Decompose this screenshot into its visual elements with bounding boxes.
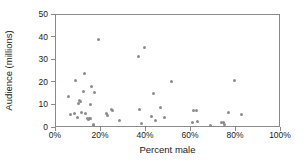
data-point — [89, 103, 92, 106]
data-point — [209, 124, 212, 127]
data-point — [82, 90, 85, 93]
y-axis-tick-label: 30 — [39, 54, 48, 64]
y-axis-tick-label: 40 — [39, 32, 48, 42]
y-axis-title: Audience (millions) — [2, 14, 14, 127]
x-axis-tick-label: 20% — [91, 130, 108, 140]
data-point — [233, 79, 236, 82]
data-point — [93, 91, 96, 94]
data-point — [227, 111, 230, 114]
data-point — [196, 120, 199, 123]
data-point — [163, 116, 166, 119]
data-point — [73, 112, 76, 115]
y-axis-tick-label: 0 — [43, 122, 48, 132]
data-point — [80, 111, 83, 114]
data-point — [118, 119, 121, 122]
y-axis-tick — [51, 127, 55, 128]
y-axis-tick — [51, 14, 55, 15]
data-point — [76, 116, 79, 119]
data-point — [152, 92, 155, 95]
data-point — [195, 109, 198, 112]
x-axis-title: Percent male — [55, 144, 280, 155]
data-point — [90, 85, 93, 88]
data-point — [92, 124, 95, 127]
y-axis-tick — [51, 81, 55, 82]
data-point — [140, 122, 143, 125]
y-axis-tick-label: 20 — [39, 77, 48, 87]
y-axis-tick-label: 50 — [39, 9, 48, 19]
data-point — [97, 38, 100, 41]
y-axis-tick — [51, 36, 55, 37]
y-axis-tick — [51, 59, 55, 60]
data-point — [143, 46, 146, 49]
data-point — [106, 114, 109, 117]
y-axis-tick-label: 10 — [39, 99, 48, 109]
x-axis-tick-label: 0% — [49, 130, 61, 140]
data-point — [154, 119, 157, 122]
data-point — [138, 108, 141, 111]
scatter-plot-figure: Audience (millions) Percent male 0%20%40… — [0, 0, 304, 163]
data-point — [170, 80, 173, 83]
data-point — [159, 106, 162, 109]
data-point — [89, 117, 92, 120]
x-axis-tick-label: 40% — [136, 130, 153, 140]
data-point — [111, 109, 114, 112]
data-point — [74, 79, 77, 82]
x-axis-tick-label: 100% — [269, 130, 291, 140]
data-point — [223, 123, 226, 126]
data-point — [137, 55, 140, 58]
data-point — [150, 115, 153, 118]
data-point — [84, 112, 87, 115]
data-point — [69, 113, 72, 116]
data-point — [191, 121, 194, 124]
x-axis-tick-label: 80% — [226, 130, 243, 140]
plot-area — [55, 14, 280, 127]
x-axis-tick-label: 60% — [181, 130, 198, 140]
data-point — [67, 95, 70, 98]
data-point — [240, 113, 243, 116]
data-point — [79, 100, 82, 103]
y-axis-tick — [51, 104, 55, 105]
y-axis-title-text: Audience (millions) — [3, 30, 14, 110]
data-point — [83, 72, 86, 75]
